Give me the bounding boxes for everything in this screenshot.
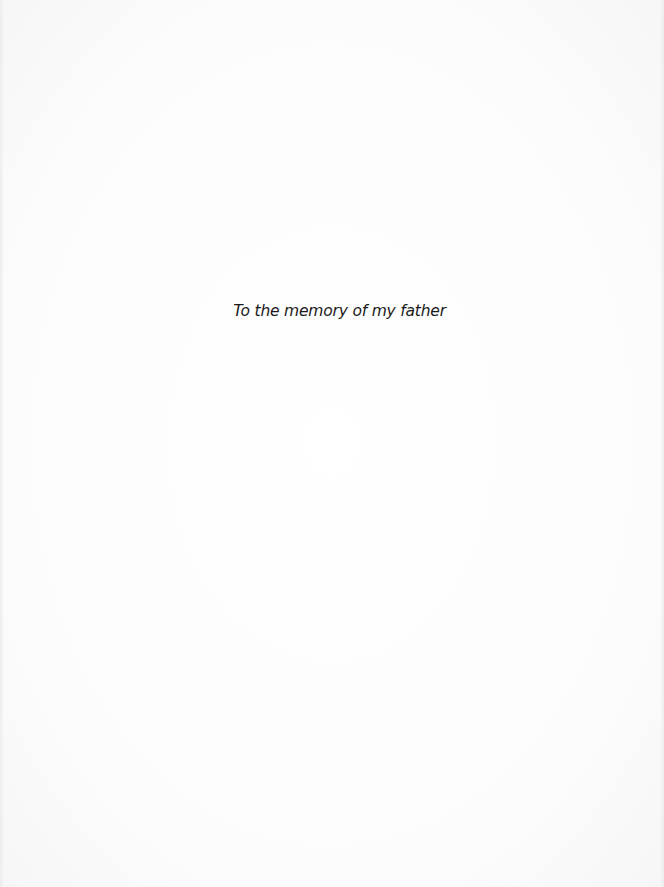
- page-edge-left: [0, 0, 4, 887]
- page-edge-right: [660, 0, 664, 887]
- dedication-text: To the memory of my father: [0, 300, 664, 322]
- book-page: To the memory of my father: [0, 0, 664, 887]
